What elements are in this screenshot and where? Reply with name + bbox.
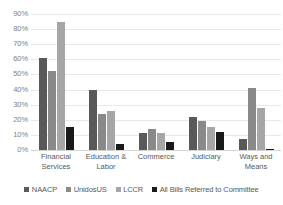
bar[interactable] (57, 22, 65, 150)
bar[interactable] (157, 133, 165, 150)
plot-area (31, 14, 281, 150)
bar[interactable] (198, 121, 206, 150)
y-axis-tick-label: 70% (13, 40, 28, 48)
legend-item[interactable]: All Bills Referred to Committee (152, 185, 259, 194)
bar[interactable] (216, 132, 224, 150)
legend-swatch-icon (66, 187, 71, 192)
legend-item[interactable]: NAACP (24, 185, 57, 194)
y-axis-tick-label: 50% (13, 70, 28, 78)
legend-label: UnidosUS (74, 185, 107, 194)
axis-baseline (31, 150, 281, 151)
bar-groups (31, 14, 281, 150)
x-axis-category-label: Ways and Means (231, 152, 281, 182)
bar-group (131, 14, 181, 150)
y-axis-tick-label: 0% (17, 146, 28, 154)
x-axis-category-labels: Financial ServicesEducation & LaborComme… (31, 152, 281, 182)
bar[interactable] (166, 142, 174, 150)
bar[interactable] (116, 144, 124, 150)
bar[interactable] (48, 71, 56, 150)
legend-label: NAACP (32, 185, 57, 194)
bar[interactable] (266, 149, 274, 151)
legend-swatch-icon (24, 187, 29, 192)
y-axis-tick-label: 40% (13, 86, 28, 94)
x-axis-category-label: Education & Labor (81, 152, 131, 182)
bar[interactable] (98, 114, 106, 150)
plot-wrapper: 90%80%70%60%50%40%30%20%10%0% (0, 0, 283, 156)
bar-group (181, 14, 231, 150)
y-axis-tick-label: 60% (13, 55, 28, 63)
chart-legend: NAACPUnidosUSLCCRAll Bills Referred to C… (0, 185, 283, 194)
bar[interactable] (239, 139, 247, 150)
legend-item[interactable]: UnidosUS (66, 185, 106, 194)
y-axis: 90%80%70%60%50%40%30%20%10%0% (0, 14, 30, 150)
bar-group (31, 14, 81, 150)
x-axis-category-label: Financial Services (31, 152, 81, 182)
y-axis-tick-label: 10% (13, 131, 28, 139)
bar[interactable] (248, 88, 256, 150)
bar[interactable] (107, 111, 115, 150)
bar[interactable] (39, 58, 47, 150)
bar[interactable] (139, 133, 147, 150)
bar[interactable] (257, 108, 265, 150)
bar[interactable] (66, 127, 74, 150)
grouped-bar-chart: 90%80%70%60%50%40%30%20%10%0% Financial … (0, 0, 283, 205)
bar[interactable] (148, 129, 156, 150)
y-axis-tick-label: 20% (13, 116, 28, 124)
bar[interactable] (207, 127, 215, 150)
y-axis-tick-label: 30% (13, 101, 28, 109)
x-axis-category-label: Commerce (131, 152, 181, 182)
y-axis-tick-label: 80% (13, 25, 28, 33)
legend-label: All Bills Referred to Committee (160, 185, 259, 194)
y-axis-tick-label: 90% (13, 10, 28, 18)
x-axis-category-label: Judiciary (181, 152, 231, 182)
legend-swatch-icon (116, 187, 121, 192)
bar[interactable] (89, 90, 97, 150)
bar-group (81, 14, 131, 150)
bar-group (231, 14, 281, 150)
legend-item[interactable]: LCCR (116, 185, 144, 194)
bar[interactable] (189, 117, 197, 150)
legend-label: LCCR (123, 185, 143, 194)
legend-swatch-icon (152, 187, 157, 192)
